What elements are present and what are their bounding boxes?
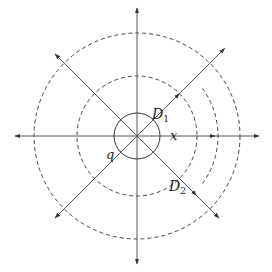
field-diagram: q D1 D2 x <box>0 0 272 272</box>
ray-up-right <box>137 48 225 136</box>
ray-down-right-mid-arrow-icon <box>194 193 196 195</box>
label-x: x <box>170 128 178 143</box>
ray-down-left <box>55 136 137 218</box>
label-q: q <box>106 147 114 162</box>
label-d2: D2 <box>168 178 186 196</box>
field-lines <box>15 8 259 264</box>
ray-up-left <box>55 54 137 136</box>
ray-up-right-mid-arrow-icon <box>177 94 179 96</box>
label-d1: D1 <box>151 106 169 124</box>
